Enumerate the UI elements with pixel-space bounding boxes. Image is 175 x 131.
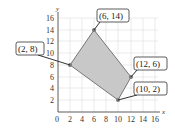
svg-text:4: 4 — [80, 115, 84, 124]
label-6-14: (6, 14) — [99, 11, 123, 21]
svg-text:10: 10 — [46, 49, 54, 58]
svg-text:0: 0 — [55, 115, 59, 124]
x-axis-label: x — [161, 108, 166, 116]
svg-text:16: 16 — [151, 115, 159, 124]
svg-text:6: 6 — [50, 73, 54, 82]
svg-text:16: 16 — [46, 14, 54, 23]
label-10-2: (10, 2) — [136, 84, 160, 94]
svg-text:12: 12 — [46, 37, 54, 46]
svg-text:4: 4 — [50, 84, 54, 93]
svg-text:14: 14 — [139, 115, 147, 124]
chart: x y 02 46 810 1214 16 24 68 1012 1416 (2… — [0, 0, 175, 131]
y-axis-label: y — [55, 5, 60, 13]
svg-text:2: 2 — [50, 96, 54, 105]
feasible-region — [70, 30, 131, 100]
svg-text:8: 8 — [50, 61, 54, 70]
label-2-8: (2, 8) — [18, 44, 38, 54]
x-tick-labels: 02 46 810 1214 16 — [55, 115, 159, 124]
svg-text:2: 2 — [68, 115, 72, 124]
svg-text:10: 10 — [114, 115, 122, 124]
label-12-6: (12, 6) — [136, 59, 160, 69]
svg-text:14: 14 — [46, 26, 54, 35]
svg-text:8: 8 — [104, 115, 108, 124]
svg-text:12: 12 — [127, 115, 135, 124]
svg-text:6: 6 — [92, 115, 96, 124]
